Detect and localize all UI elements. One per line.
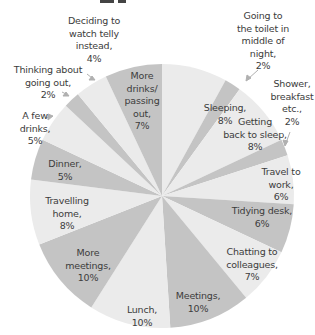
label-more-drinks: More drinks/ passing out, 7% — [122, 70, 162, 133]
label-thinking: Thinking about going out, 2% — [4, 64, 92, 102]
label-tidying-desk: Tidying desk, 6% — [222, 205, 302, 230]
label-telly: Deciding to watch telly instead, 4% — [56, 15, 132, 65]
label-more-meetings: More meetings, 10% — [58, 247, 118, 285]
label-lunch: Lunch, 10% — [117, 304, 167, 329]
clipped-title-gap — [114, 0, 118, 3]
label-toilet: Going to the toilet in middle of night, … — [228, 10, 298, 73]
clipped-title-fragment — [100, 0, 126, 3]
label-dinner: Dinner, 5% — [40, 158, 90, 183]
label-chatting: Chatting to colleagues, 7% — [212, 246, 292, 284]
label-few-drinks: A few drinks, 5% — [12, 110, 58, 148]
label-travelling-home: Travelling home, 8% — [37, 195, 97, 233]
label-meetings: Meetings, 10% — [168, 290, 228, 315]
label-travel-to-work: Travel to work, 6% — [246, 166, 315, 204]
arrow-head-toilet — [246, 75, 251, 81]
label-shower: Shower, breakfast etc., 2% — [265, 78, 315, 128]
